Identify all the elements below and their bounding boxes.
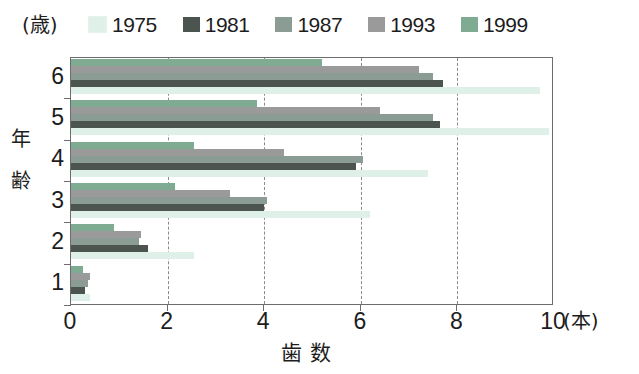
legend-label: 1975	[112, 14, 157, 35]
bar	[71, 107, 380, 114]
plot-area	[70, 57, 553, 305]
bar	[71, 170, 428, 177]
bar-group	[71, 99, 552, 140]
legend-swatch-icon	[183, 17, 200, 32]
bar	[71, 266, 83, 273]
bar	[71, 100, 257, 107]
bar-group	[71, 223, 552, 264]
legend-swatch-icon	[461, 17, 478, 32]
legend-label: 1987	[297, 14, 342, 35]
bar	[71, 238, 139, 245]
y-axis-tick	[64, 98, 71, 99]
bar	[71, 142, 194, 149]
y-axis-tick-label: 3	[30, 189, 64, 212]
x-axis-title: 歯数	[0, 340, 620, 366]
bar	[71, 245, 148, 252]
x-axis-tick-label: 2	[147, 308, 187, 334]
legend-label: 1993	[390, 14, 435, 35]
legend-entry: 1981	[183, 14, 250, 35]
bar	[71, 294, 90, 301]
y-axis-tick	[64, 181, 71, 182]
bar	[71, 114, 433, 121]
bar	[71, 197, 267, 204]
x-axis-tick-label: 10	[533, 308, 573, 334]
bar	[71, 204, 264, 211]
bar	[71, 156, 363, 163]
bar	[71, 149, 284, 156]
legend-entry: 1999	[461, 14, 528, 35]
bar	[71, 128, 549, 135]
legend-entry: 1993	[368, 14, 435, 35]
bar	[71, 224, 114, 231]
bar-group	[71, 141, 552, 182]
bar-group	[71, 58, 552, 99]
bar	[71, 121, 440, 128]
bar-group	[71, 265, 552, 305]
bar	[71, 73, 433, 80]
bar	[71, 252, 194, 259]
legend-entry: 1975	[88, 14, 157, 35]
bar-group	[71, 182, 552, 223]
legend-label: 1981	[205, 14, 250, 35]
bar	[71, 80, 443, 87]
chart-legend: 19751981198719931999	[88, 10, 528, 38]
bar	[71, 280, 88, 287]
y-axis-tick	[64, 140, 71, 141]
x-axis-tick-label: 4	[243, 308, 283, 334]
bar	[71, 163, 356, 170]
legend-swatch-icon	[275, 17, 292, 32]
y-axis-tick	[64, 305, 71, 306]
legend-entry: 1987	[275, 14, 342, 35]
x-axis-tick-label: 6	[340, 308, 380, 334]
y-axis-tick	[64, 264, 71, 265]
x-axis-tick-label: 0	[50, 308, 90, 334]
bar	[71, 190, 230, 197]
bar	[71, 66, 419, 73]
bar	[71, 211, 370, 218]
x-axis-tick-label: 8	[436, 308, 476, 334]
legend-swatch-icon	[368, 17, 385, 32]
bar	[71, 287, 85, 294]
chart-figure: (歳) 19751981198719931999 年齢 654321 (本) 歯…	[0, 0, 639, 374]
y-axis-tick-label: 4	[30, 147, 64, 170]
y-axis-tick-label: 5	[30, 106, 64, 129]
bar	[71, 231, 141, 238]
y-axis-tick-label: 2	[30, 230, 64, 253]
y-axis-tick-label: 1	[30, 271, 64, 294]
y-axis-tick-label: 6	[30, 65, 64, 88]
bar	[71, 183, 175, 190]
bar	[71, 59, 322, 66]
legend-label: 1999	[483, 14, 528, 35]
bar	[71, 87, 540, 94]
legend-swatch-icon	[88, 16, 107, 33]
y-axis-tick	[64, 222, 71, 223]
bar	[71, 273, 90, 280]
